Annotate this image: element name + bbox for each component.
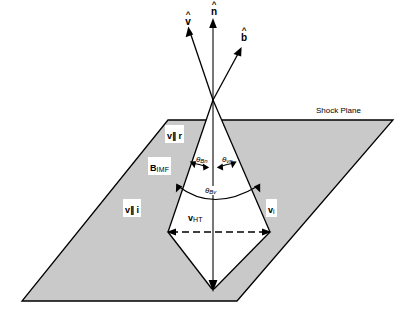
theta-bn-label: θBn [196,155,208,164]
n-hat-label: ^ n [203,2,225,17]
theta-bv-subscript: Bv [209,189,216,195]
theta-bn-subscript: Bn [200,158,207,164]
v-ht-label: vHT [186,207,205,225]
v-parallel-r-label: v∥ r [165,125,184,143]
b-imf-label: BIMF [148,157,171,175]
b-hat-arrowhead [234,47,242,57]
v-hat-label: ^ v [177,12,199,27]
v-i-subscript: i [273,208,275,215]
v-parallel-r-subscript: ∥ r [172,131,182,141]
n-hat-letter: n [203,7,225,17]
theta-vn-subscript: vn [226,158,232,164]
b-hat-letter: b [233,33,255,43]
b-hat-ray [213,52,239,100]
v-hat-ray [190,32,213,100]
n-hat-arrowhead [209,18,217,28]
v-hat-letter: v [177,17,199,27]
diagram-canvas [0,0,405,332]
b-hat-label: ^ b [233,28,255,43]
b-imf-subscript: IMF [157,166,170,173]
shock-geometry-figure: ^ v ^ n ^ b Shock Plane v∥ r BIMF v∥ i v… [0,0,405,332]
v-i-label: vi [266,199,277,217]
v-hat-arrowhead [186,27,194,38]
v-parallel-i-label: v∥ i [123,199,141,217]
v-ht-subscript: HT [193,216,203,223]
shock-plane-label: Shock Plane [316,106,361,115]
theta-bv-label: θBv [203,186,218,195]
theta-vn-label: θvn [222,155,233,164]
v-parallel-i-subscript: ∥ i [130,205,139,215]
